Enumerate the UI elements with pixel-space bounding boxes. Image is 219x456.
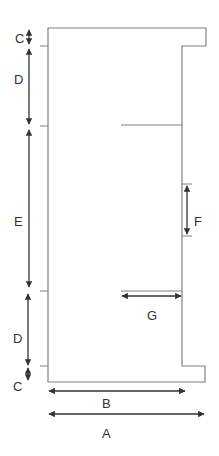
label-d-bottom: D — [13, 331, 22, 346]
label-b: B — [102, 396, 111, 411]
label-g: G — [147, 308, 157, 323]
label-d-top: D — [14, 72, 23, 87]
label-f: F — [194, 214, 202, 229]
label-c-bottom: C — [13, 379, 22, 394]
label-a: A — [102, 426, 111, 441]
dimension-diagram: C D E D C F G B A — [0, 0, 219, 456]
label-e: E — [14, 214, 23, 229]
label-c-top: C — [15, 31, 24, 46]
profile-outline — [48, 28, 206, 382]
